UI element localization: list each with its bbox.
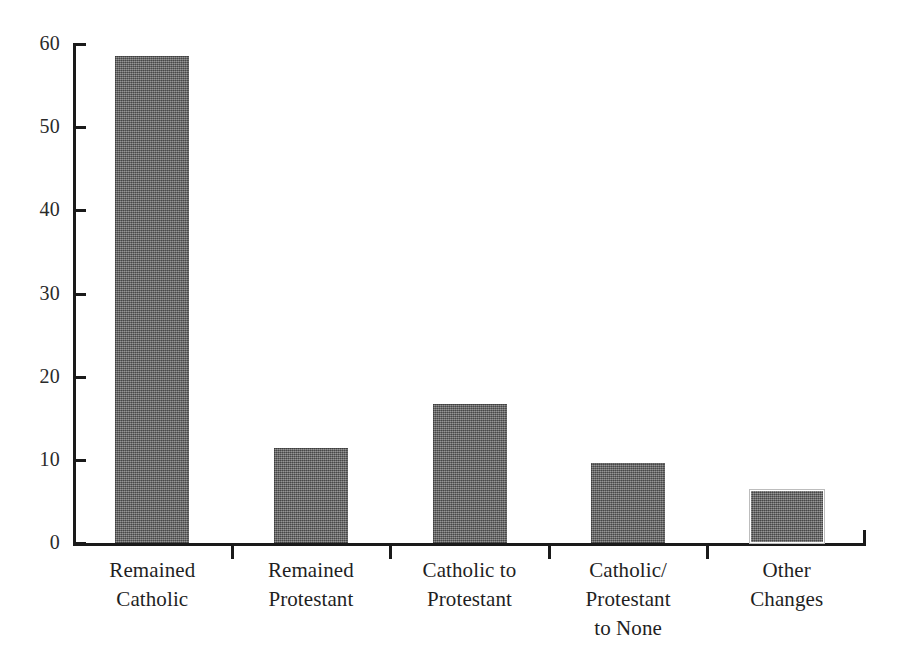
bar: [750, 490, 824, 543]
bar: [115, 56, 189, 543]
y-axis-tick-label: 10: [8, 449, 60, 469]
bar: [433, 404, 507, 543]
x-axis-line: [73, 543, 866, 546]
category-label: Remained Protestant: [232, 556, 391, 614]
y-axis-tick-label: 60: [8, 33, 60, 53]
bar-chart: 0102030405060 Remained CatholicRemained …: [0, 0, 901, 646]
y-axis-tick-label: 40: [8, 199, 60, 219]
bar: [591, 463, 665, 543]
y-axis-tick-label: 20: [8, 366, 60, 386]
plot-area: [73, 44, 866, 543]
y-axis-tick-label: 0: [8, 532, 60, 552]
bar: [274, 448, 348, 543]
category-label: Remained Catholic: [73, 556, 232, 614]
category-label: Other Changes: [707, 556, 866, 614]
y-axis-tick-label: 30: [8, 283, 60, 303]
category-label: Catholic to Protestant: [390, 556, 549, 614]
category-label: Catholic/ Protestant to None: [549, 556, 708, 643]
y-axis-tick-label: 50: [8, 116, 60, 136]
